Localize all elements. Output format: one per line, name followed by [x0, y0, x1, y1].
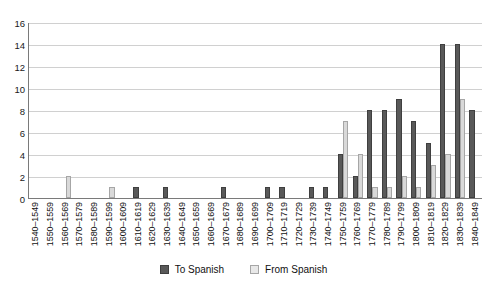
legend-item-to-spanish: To Spanish: [160, 264, 224, 275]
x-axis-tick-label: 1740–1749: [323, 202, 333, 246]
x-axis-tick: 1560–1569: [57, 202, 72, 258]
x-axis-tick: 1730–1739: [306, 202, 321, 258]
y-axis-tick-label: 0: [20, 194, 25, 205]
x-axis-tick-label: 1750–1759: [338, 202, 348, 246]
bar-from-spanish: [358, 154, 363, 198]
x-axis-tick-label: 1700–1709: [265, 202, 275, 246]
x-axis-tick-label: 1810–1819: [426, 202, 436, 246]
x-axis-tick-label: 1760–1769: [352, 202, 362, 246]
legend-swatch-from-spanish: [250, 265, 259, 274]
bar-group: [29, 23, 44, 198]
x-axis-tick-label: 1820–1829: [440, 202, 450, 246]
bar-to-spanish: [367, 110, 372, 198]
x-axis-tick-label: 1660–1669: [206, 202, 216, 246]
chart-legend: To Spanish From Spanish: [0, 264, 487, 275]
bar-group: [73, 23, 88, 198]
x-axis-tick-label: 1670–1679: [221, 202, 231, 246]
x-axis-tick-label: 1720–1729: [294, 202, 304, 246]
x-axis-tick: 1640–1649: [174, 202, 189, 258]
y-axis-tick-label: 2: [20, 172, 25, 183]
x-axis-tick-label: 1680–1689: [235, 202, 245, 246]
bar-group: [219, 23, 234, 198]
bar-group: [117, 23, 132, 198]
x-axis-tick: 1590–1599: [101, 202, 116, 258]
y-axis-tick-label: 8: [20, 106, 25, 117]
x-axis-tick-label: 1550–1559: [45, 202, 55, 246]
bar-from-spanish: [343, 121, 348, 198]
x-axis-tick-label: 1780–1789: [382, 202, 392, 246]
x-axis-tick: 1620–1629: [145, 202, 160, 258]
x-axis-tick: 1540–1549: [28, 202, 43, 258]
bar-group: [307, 23, 322, 198]
bar-from-spanish: [387, 187, 392, 198]
x-axis-tick: 1600–1609: [116, 202, 131, 258]
bar-from-spanish: [416, 187, 421, 198]
x-axis-tick-label: 1560–1569: [60, 202, 70, 246]
bar-group: [44, 23, 59, 198]
x-axis-tick: 1630–1639: [160, 202, 175, 258]
legend-label-from-spanish: From Spanish: [265, 264, 327, 275]
bar-group: [336, 23, 351, 198]
y-axis-tick-label: 16: [14, 18, 25, 29]
bar-group: [350, 23, 365, 198]
bar-group: [467, 23, 482, 198]
bar-to-spanish: [309, 187, 314, 198]
bar-from-spanish: [109, 187, 114, 198]
bar-group: [175, 23, 190, 198]
bar-group: [190, 23, 205, 198]
x-axis-tick-label: 1730–1739: [308, 202, 318, 246]
bar-group: [248, 23, 263, 198]
x-axis-tick: 1690–1699: [248, 202, 263, 258]
bar-group: [204, 23, 219, 198]
bar-to-spanish: [382, 110, 387, 198]
x-axis-tick: 1700–1709: [262, 202, 277, 258]
x-axis-tick: 1750–1759: [335, 202, 350, 258]
x-axis-tick: 1680–1689: [233, 202, 248, 258]
bar-series-container: [29, 23, 482, 198]
x-axis-tick: 1650–1659: [189, 202, 204, 258]
bar-group: [438, 23, 453, 198]
x-axis-tick: 1810–1819: [423, 202, 438, 258]
y-axis-tick-label: 14: [14, 40, 25, 51]
bar-to-spanish: [265, 187, 270, 198]
x-axis-tick: 1660–1669: [204, 202, 219, 258]
y-axis-tick-label: 4: [20, 150, 25, 161]
bar-group: [58, 23, 73, 198]
x-axis-tick: 1720–1729: [292, 202, 307, 258]
legend-swatch-to-spanish: [160, 265, 169, 274]
x-axis-tick-label: 1540–1549: [30, 202, 40, 246]
bar-group: [102, 23, 117, 198]
x-axis-labels: 1540–15491550–15591560–15691570–15791580…: [28, 202, 482, 258]
x-axis-tick: 1580–1589: [87, 202, 102, 258]
legend-label-to-spanish: To Spanish: [175, 264, 224, 275]
x-axis-tick: 1710–1719: [277, 202, 292, 258]
x-axis-tick: 1770–1779: [365, 202, 380, 258]
bar-to-spanish: [323, 187, 328, 198]
x-axis-tick-label: 1570–1579: [74, 202, 84, 246]
x-axis-tick-label: 1710–1719: [279, 202, 289, 246]
legend-item-from-spanish: From Spanish: [250, 264, 327, 275]
bar-group: [394, 23, 409, 198]
bar-group: [409, 23, 424, 198]
bar-to-spanish: [469, 110, 474, 198]
x-axis-tick-label: 1770–1779: [367, 202, 377, 246]
bar-from-spanish: [431, 165, 436, 198]
bar-to-spanish: [279, 187, 284, 198]
bar-group: [160, 23, 175, 198]
x-axis-tick-label: 1600–1609: [118, 202, 128, 246]
bar-group: [365, 23, 380, 198]
x-axis-tick-label: 1800–1809: [411, 202, 421, 246]
y-axis-tick-label: 10: [14, 84, 25, 95]
x-axis-tick-label: 1590–1599: [104, 202, 114, 246]
bar-group: [423, 23, 438, 198]
x-axis-tick-label: 1580–1589: [89, 202, 99, 246]
x-axis-tick: 1760–1769: [350, 202, 365, 258]
y-axis-tick-label: 6: [20, 128, 25, 139]
bar-from-spanish: [66, 176, 71, 198]
bar-to-spanish: [133, 187, 138, 198]
x-axis-tick: 1800–1809: [409, 202, 424, 258]
x-axis-tick: 1780–1789: [379, 202, 394, 258]
x-axis-tick: 1550–1559: [43, 202, 58, 258]
bar-group: [321, 23, 336, 198]
bar-from-spanish: [372, 187, 377, 198]
